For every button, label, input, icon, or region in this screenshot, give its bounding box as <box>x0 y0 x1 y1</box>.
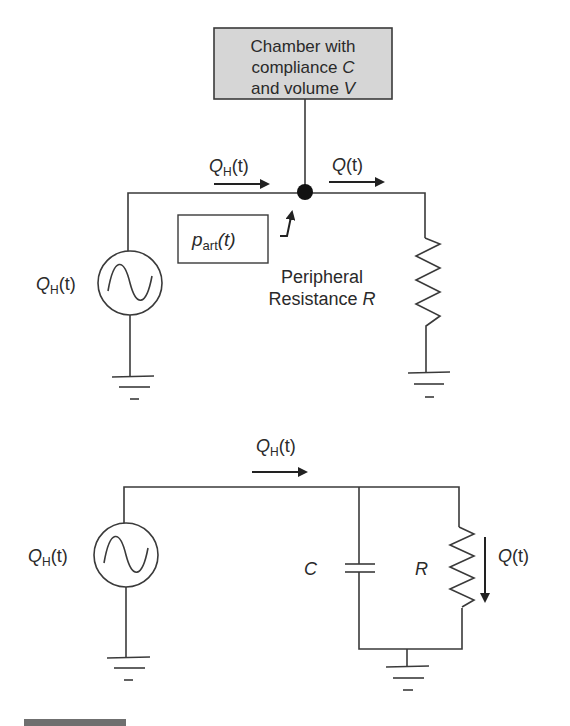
chamber-line-3: and volume V <box>251 79 357 98</box>
footer-bar <box>24 719 126 726</box>
ground-icon <box>107 657 150 680</box>
bottom-circuit: QH(t) Q(t) C R QH(t) <box>28 436 529 690</box>
capacitor-icon <box>345 564 375 572</box>
resistor-label: R <box>415 559 428 579</box>
top-wire <box>128 193 425 251</box>
ground-icon <box>408 372 450 397</box>
resistor-icon <box>416 238 440 372</box>
chamber-line-1: Chamber with <box>251 37 356 56</box>
capacitor-label: C <box>304 559 318 579</box>
sine-wave-icon <box>108 264 152 300</box>
resistor-icon <box>450 527 474 607</box>
chamber-line-2: compliance C <box>252 58 356 77</box>
top-wire <box>124 487 459 527</box>
sine-wave-icon <box>104 536 148 572</box>
inflow-label: QH(t) <box>209 156 249 179</box>
inflow-label: QH(t) <box>256 436 296 459</box>
windkessel-diagram: Chamber with compliance C and volume V Q… <box>0 0 570 726</box>
ground-icon <box>386 666 429 690</box>
source-label: QH(t) <box>36 274 76 297</box>
source-label: QH(t) <box>28 546 68 569</box>
pressure-pointer-arrow-icon <box>280 212 292 236</box>
resistance-label-line-2: Resistance R <box>268 289 375 309</box>
outflow-label: Q(t) <box>332 155 363 175</box>
resistance-label-line-1: Peripheral <box>281 267 363 287</box>
resistor-flow-label: Q(t) <box>498 546 529 566</box>
ground-icon <box>112 376 154 399</box>
bottom-return-wire <box>359 572 462 649</box>
top-circuit: Chamber with compliance C and volume V Q… <box>36 28 450 399</box>
junction-node <box>297 184 313 200</box>
